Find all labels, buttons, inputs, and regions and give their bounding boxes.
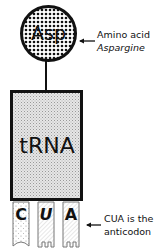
amino-acid-abbrev: Asp: [22, 21, 75, 45]
base-u-letter: U: [38, 205, 54, 225]
arrow-left-icon: [79, 39, 95, 44]
trna-label: tRNA: [11, 133, 83, 159]
amino-acid-name: Aspargine: [97, 42, 145, 54]
base-c-letter: C: [13, 205, 29, 225]
base-a-letter: A: [63, 205, 79, 225]
anticodon-label-2: anticodon: [104, 226, 151, 238]
amino-acid-label: Amino acid: [97, 29, 150, 41]
anticodon-label: CUA is the: [104, 213, 153, 225]
arrow-left-icon: [86, 223, 101, 228]
